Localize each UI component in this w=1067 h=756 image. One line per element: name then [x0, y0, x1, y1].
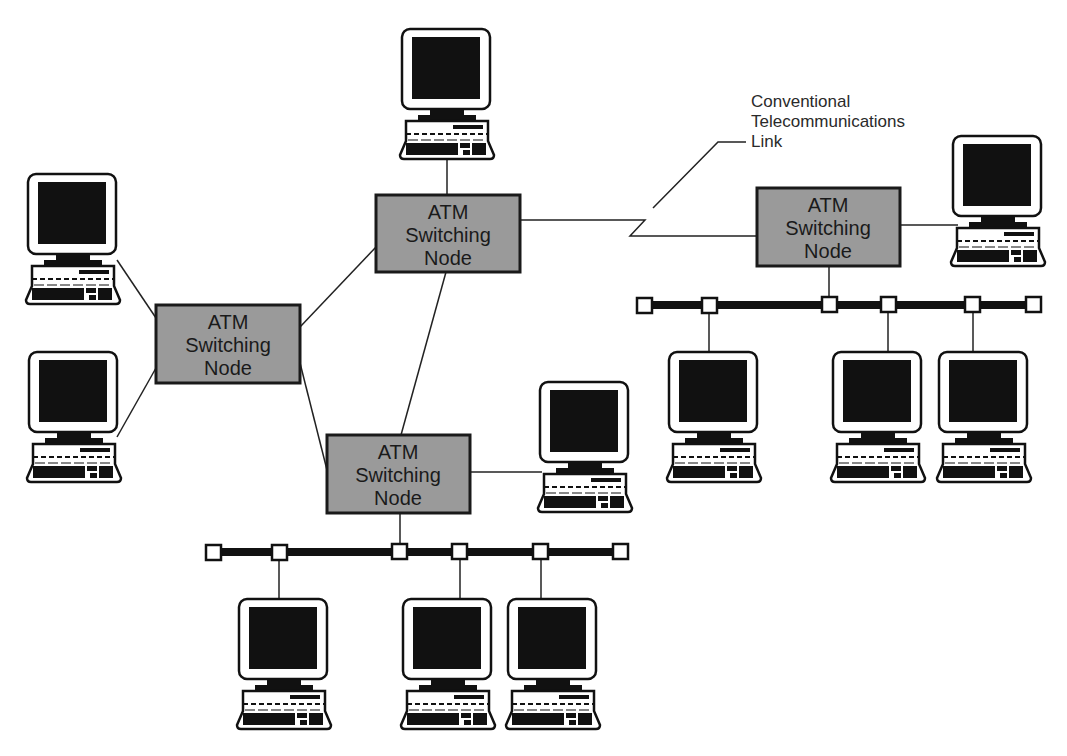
node-label-line3: Node: [804, 240, 852, 262]
atm-network-diagram: ATM Switching Node ATM Switching Node AT…: [0, 0, 1067, 756]
computer-icon: [667, 352, 761, 482]
link-left-pc2-node: [117, 368, 156, 437]
node-label-line3: Node: [374, 487, 422, 509]
switching-node-top: ATM Switching Node: [376, 195, 520, 272]
bus-tap-icon: [533, 544, 548, 559]
computer-icon: [506, 599, 600, 729]
computer-icon: [26, 174, 120, 304]
computer-icon: [951, 136, 1045, 266]
node-label-line2: Switching: [355, 464, 441, 486]
link-left-top: [300, 247, 376, 327]
node-label-line2: Switching: [185, 334, 271, 356]
node-label-line2: Switching: [785, 217, 871, 239]
bus-tap-icon: [272, 545, 287, 560]
bus-tap-icon: [613, 544, 628, 559]
bus-tap-icon: [702, 298, 717, 313]
switching-node-left: ATM Switching Node: [156, 305, 300, 383]
lan-bus-right: [637, 297, 1041, 352]
link-top-bottom: [401, 272, 446, 435]
node-label-line3: Node: [424, 247, 472, 269]
switching-node-bottom: ATM Switching Node: [327, 435, 470, 513]
callout-leader: [653, 142, 746, 208]
switching-node-right: ATM Switching Node: [757, 188, 900, 266]
computer-icon: [400, 29, 494, 159]
computer-icon: [538, 382, 632, 512]
bus-tap-icon: [637, 298, 652, 313]
link-left-bottom: [300, 363, 327, 470]
link-left-pc1-node: [117, 260, 156, 318]
computer-icon: [27, 352, 121, 482]
bus-tap-icon: [881, 297, 896, 312]
bus-tap-icon: [1026, 297, 1041, 312]
bus-tap-icon: [822, 297, 837, 312]
node-label-line1: ATM: [808, 194, 849, 216]
computer-icon: [237, 599, 331, 729]
node-label-line1: ATM: [208, 311, 249, 333]
bus-tap-icon: [392, 544, 407, 559]
computer-icon: [937, 352, 1031, 482]
telecom-link: [520, 220, 757, 236]
bus-tap-icon: [206, 545, 221, 560]
telecom-link-callout: Conventional Telecommunications Link: [751, 92, 905, 151]
computer-icon: [401, 599, 495, 729]
callout-line2: Telecommunications: [751, 112, 905, 131]
node-label-line2: Switching: [405, 224, 491, 246]
node-label-line3: Node: [204, 357, 252, 379]
node-label-line1: ATM: [428, 201, 469, 223]
computer-icon: [831, 352, 925, 482]
callout-line1: Conventional: [751, 92, 850, 111]
callout-line3: Link: [751, 132, 783, 151]
bus-tap-icon: [452, 544, 467, 559]
bus-tap-icon: [965, 297, 980, 312]
node-label-line1: ATM: [378, 441, 419, 463]
lan-bus-bottom: [206, 544, 628, 598]
